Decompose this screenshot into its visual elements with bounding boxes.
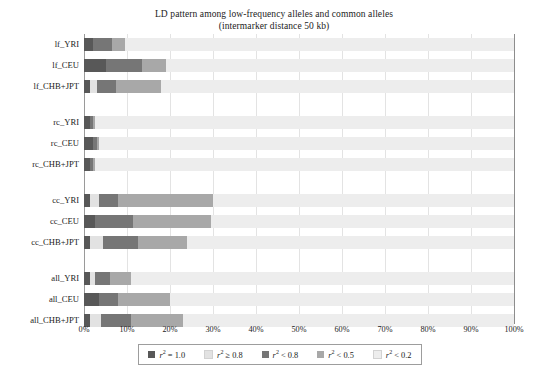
legend-item[interactable]: r2 < 0.8: [262, 349, 299, 360]
bar-row: lf_CHB+JPT: [84, 80, 514, 93]
x-tick-label: 0%: [79, 325, 90, 334]
bar-segment: [84, 293, 99, 306]
legend-swatch: [262, 351, 269, 358]
bar-segment: [93, 38, 112, 51]
bar-segment: [95, 158, 514, 171]
bar-segment: [170, 293, 514, 306]
figure-root: LD pattern among low-frequency alleles a…: [0, 0, 548, 380]
bar-segment: [99, 293, 118, 306]
x-tick-label: 40%: [248, 325, 263, 334]
bar-segment: [211, 215, 514, 228]
legend-item[interactable]: r2 < 0.2: [373, 349, 412, 360]
row-label: cc_YRI: [52, 194, 79, 207]
bar-segment: [99, 137, 514, 150]
x-tick-label: 100%: [504, 325, 523, 334]
stacked-bar: [84, 158, 514, 171]
stacked-bar: [84, 272, 514, 285]
x-tick-label: 80%: [420, 325, 435, 334]
bar-row: all_CEU: [84, 293, 514, 306]
row-label: all_CHB+JPT: [30, 314, 79, 327]
bar-segment: [112, 38, 125, 51]
x-axis: 0%10%20%30%40%50%60%70%80%90%100%: [84, 325, 514, 339]
bar-segment: [118, 293, 170, 306]
legend-item[interactable]: r2 < 0.5: [317, 349, 354, 360]
row-label: rc_YRI: [53, 116, 79, 129]
row-label: rc_CHB+JPT: [32, 158, 79, 171]
row-label: cc_CHB+JPT: [31, 236, 79, 249]
bar-segment: [166, 59, 514, 72]
row-label: all_CEU: [49, 293, 79, 306]
bar-segment: [103, 236, 137, 249]
stacked-bar: [84, 59, 514, 72]
stacked-bar: [84, 293, 514, 306]
bar-segment: [187, 236, 514, 249]
bar-segment: [161, 80, 514, 93]
row-label: lf_CEU: [52, 59, 79, 72]
x-tick-label: 50%: [291, 325, 306, 334]
bar-segment: [84, 137, 93, 150]
x-tick-label: 70%: [377, 325, 392, 334]
bar-segment: [97, 80, 116, 93]
legend-label: r2 = 1.0: [159, 349, 185, 360]
bar-row: rc_YRI: [84, 116, 514, 129]
bar-row: cc_CEU: [84, 215, 514, 228]
legend-swatch: [373, 350, 382, 359]
bar-segment: [213, 194, 514, 207]
chart-title: LD pattern among low-frequency alleles a…: [0, 8, 548, 32]
bar-segment: [95, 215, 134, 228]
legend-label: r2 < 0.2: [386, 349, 412, 360]
bar-segment: [116, 80, 161, 93]
bar-segment: [125, 38, 514, 51]
plot-area: lf_YRIlf_CEUlf_CHB+JPTrc_YRIrc_CEUrc_CHB…: [84, 34, 514, 324]
stacked-bar: [84, 116, 514, 129]
bar-row: cc_YRI: [84, 194, 514, 207]
bar-segment: [133, 215, 210, 228]
bar-row: rc_CHB+JPT: [84, 158, 514, 171]
bar-row: lf_CEU: [84, 59, 514, 72]
stacked-bar: [84, 38, 514, 51]
stacked-bar: [84, 137, 514, 150]
bar-segment: [90, 194, 99, 207]
bar-row: rc_CEU: [84, 137, 514, 150]
row-label: rc_CEU: [51, 137, 79, 150]
stacked-bar: [84, 236, 514, 249]
row-label: lf_YRI: [55, 38, 79, 51]
bar-row: all_YRI: [84, 272, 514, 285]
legend-swatch: [148, 351, 155, 358]
gridline-100: [514, 34, 515, 324]
stacked-bar: [84, 80, 514, 93]
bar-segment: [99, 194, 118, 207]
stacked-bar: [84, 215, 514, 228]
row-label: lf_CHB+JPT: [34, 80, 79, 93]
legend-label: r2 < 0.8: [273, 349, 299, 360]
bar-segment: [90, 236, 103, 249]
x-tick-label: 30%: [205, 325, 220, 334]
bar-segment: [110, 272, 132, 285]
row-label: all_YRI: [51, 272, 79, 285]
legend-swatch: [317, 351, 324, 358]
stacked-bar: [84, 194, 514, 207]
x-tick-label: 20%: [162, 325, 177, 334]
chart-title-line-2: (intermarker distance 50 kb): [0, 20, 548, 32]
bar-segment: [118, 194, 213, 207]
x-tick-label: 90%: [463, 325, 478, 334]
chart-title-line-1: LD pattern among low-frequency alleles a…: [155, 9, 393, 19]
bar-segment: [84, 59, 106, 72]
legend: r2 = 1.0r2 ≥ 0.8r2 < 0.8r2 < 0.5r2 < 0.2: [138, 344, 422, 365]
x-tick-label: 10%: [119, 325, 134, 334]
bar-row: lf_YRI: [84, 38, 514, 51]
bar-segment: [138, 236, 187, 249]
bar-segment: [106, 59, 143, 72]
bar-segment: [95, 116, 514, 129]
legend-label: r2 ≥ 0.8: [217, 349, 243, 360]
legend-label: r2 < 0.5: [328, 349, 354, 360]
bar-segment: [84, 215, 95, 228]
x-tick-label: 60%: [334, 325, 349, 334]
legend-item[interactable]: r2 ≥ 0.8: [204, 349, 243, 360]
bar-row: cc_CHB+JPT: [84, 236, 514, 249]
bar-segment: [95, 272, 110, 285]
legend-item[interactable]: r2 = 1.0: [148, 349, 185, 360]
row-label: cc_CEU: [50, 215, 79, 228]
bar-segment: [142, 59, 166, 72]
bar-segment: [84, 38, 93, 51]
